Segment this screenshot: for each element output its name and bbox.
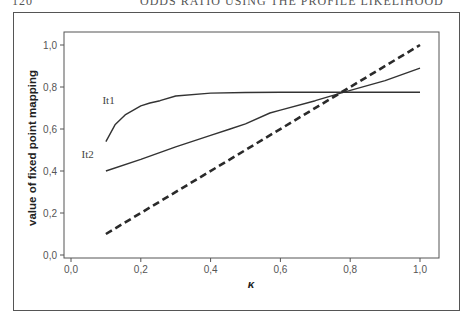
series-label-it1: It1 — [102, 94, 114, 106]
x-tick-label: 0,2 — [134, 264, 148, 275]
x-axis-title: κ — [248, 278, 255, 290]
y-tick-label: 0,2 — [43, 208, 57, 219]
x-axis: 0,00,20,40,60,81,0 — [64, 258, 427, 275]
y-tick-label: 0,8 — [43, 82, 57, 93]
x-tick-label: 0,6 — [273, 264, 287, 275]
y-tick-label: 0,0 — [43, 250, 57, 261]
series-label-it2: It2 — [81, 148, 93, 160]
y-tick-label: 0,6 — [43, 124, 57, 135]
x-tick-label: 0,4 — [204, 264, 218, 275]
y-axis: 0,00,20,40,60,81,0 — [43, 40, 64, 261]
line-chart: 0,00,20,40,60,81,0 0,00,20,40,60,81,0 It… — [0, 0, 472, 314]
x-tick-label: 0,0 — [64, 264, 78, 275]
x-tick-label: 0,8 — [343, 264, 357, 275]
x-tick-label: 1,0 — [413, 264, 427, 275]
y-axis-title: value of fixed point mapping — [26, 70, 38, 226]
y-tick-label: 1,0 — [43, 40, 57, 51]
y-tick-label: 0,4 — [43, 166, 57, 177]
